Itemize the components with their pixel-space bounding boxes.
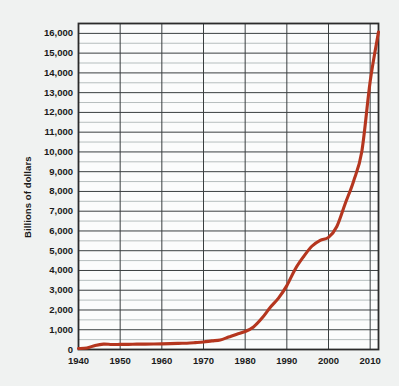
- chart-svg: [0, 0, 399, 386]
- chart-container: Billions of dollars 01,0002,0003,0004,00…: [0, 0, 399, 386]
